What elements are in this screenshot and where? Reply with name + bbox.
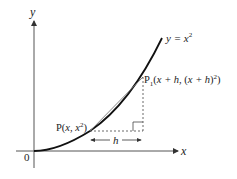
- y-axis-label: y: [29, 5, 36, 19]
- h-label: h: [113, 134, 119, 146]
- point-p-label: P(x, x2): [56, 121, 87, 134]
- point-p-close: ): [83, 122, 87, 134]
- x-axis-label: x: [180, 144, 187, 158]
- right-angle-marker: [133, 122, 143, 131]
- curve-label: y = x2: [165, 31, 193, 44]
- axes: x y 0: [16, 5, 187, 168]
- point-p1-y: x + h: [187, 74, 210, 85]
- curve-label-prefix: y =: [165, 32, 184, 44]
- derivative-secant-diagram: x y 0 h y = x2 P(x, x2) P1(x + h, (x + h…: [0, 0, 237, 179]
- origin-label: 0: [24, 151, 30, 163]
- point-p1-close: ): [217, 74, 221, 86]
- curve-label-exp: 2: [189, 31, 193, 39]
- point-p1-x: x + h: [156, 74, 179, 85]
- point-p1-label: P1(x + h, (x + h)2): [144, 73, 221, 88]
- secant-line: [90, 77, 143, 131]
- h-increment: h: [91, 134, 141, 146]
